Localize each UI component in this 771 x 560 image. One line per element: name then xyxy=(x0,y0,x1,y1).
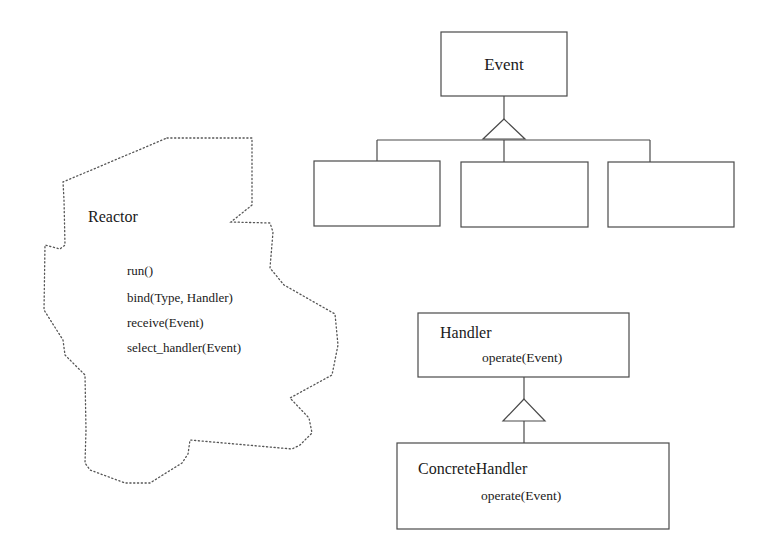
reactor-operation: select_handler(Event) xyxy=(127,340,241,355)
reactor-operation: receive(Event) xyxy=(127,315,204,330)
handler-generalization-triangle-icon xyxy=(503,399,545,421)
event-hierarchy xyxy=(314,32,734,227)
handler-class-name: Handler xyxy=(440,324,492,341)
diagram-svg: Reactor run() bind(Type, Handler) receiv… xyxy=(0,0,771,560)
diagram-canvas: Reactor run() bind(Type, Handler) receiv… xyxy=(0,0,771,560)
event-generalization-triangle-icon xyxy=(483,119,525,139)
reactor-title: Reactor xyxy=(88,208,138,225)
event-subclass-box-2 xyxy=(461,162,588,227)
event-subclass-box-3 xyxy=(608,162,734,227)
event-class-name: Event xyxy=(484,55,524,74)
reactor-cloud: Reactor run() bind(Type, Handler) receiv… xyxy=(44,138,338,483)
concrete-handler-operation: operate(Event) xyxy=(481,488,561,503)
reactor-operation: bind(Type, Handler) xyxy=(127,290,233,305)
concrete-handler-class-box xyxy=(397,443,669,529)
event-subclass-box-1 xyxy=(314,161,440,226)
handler-class-box xyxy=(418,313,629,377)
concrete-handler-class-name: ConcreteHandler xyxy=(418,460,528,477)
reactor-operation: run() xyxy=(127,263,153,278)
handler-operation: operate(Event) xyxy=(482,350,562,365)
reactor-cloud-outline xyxy=(44,138,338,483)
